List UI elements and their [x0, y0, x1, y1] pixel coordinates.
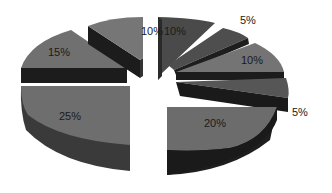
label-5pct-a: 5%: [240, 14, 256, 26]
label-15pct: 15%: [48, 46, 70, 58]
label-25pct: 25%: [59, 110, 81, 122]
label-10pct-c: 10%: [241, 54, 263, 66]
slice-25pct: [21, 86, 130, 171]
pie-chart: 10% 10% 5% 10% 5% 20% 25% 15%: [0, 0, 332, 193]
label-10pct-b: 10%: [164, 25, 186, 37]
label-10pct-a: 10%: [141, 25, 163, 37]
slice-5pct-right: [176, 78, 289, 112]
label-5pct-b: 5%: [292, 106, 308, 118]
label-20pct: 20%: [204, 117, 226, 129]
